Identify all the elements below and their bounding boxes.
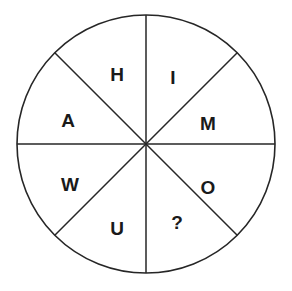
sector-label-question: ? bbox=[171, 213, 183, 232]
wheel-diagram bbox=[0, 0, 292, 291]
sector-label-o: O bbox=[201, 178, 216, 197]
sector-label-w: W bbox=[61, 175, 79, 194]
sector-label-u: U bbox=[110, 219, 124, 238]
sector-label-m: M bbox=[200, 114, 216, 133]
sector-label-a: A bbox=[61, 111, 75, 130]
letter-wheel-figure: H I M O ? U W A bbox=[0, 0, 292, 291]
sector-label-i: I bbox=[170, 68, 175, 87]
sector-label-h: H bbox=[110, 65, 124, 84]
